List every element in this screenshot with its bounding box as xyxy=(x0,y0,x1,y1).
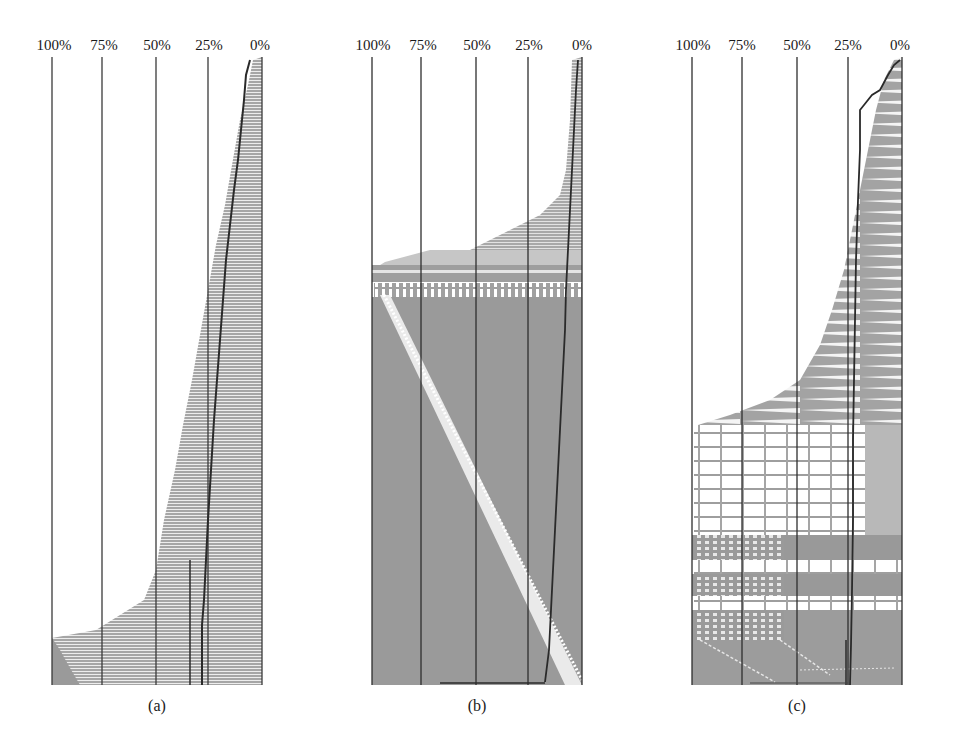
caption-c: (c) xyxy=(788,697,806,715)
envelope-area xyxy=(52,57,262,685)
caption-b: (b) xyxy=(468,697,487,715)
panel-b: 100% 75% 50% 25% 0% xyxy=(360,0,620,754)
plot-a xyxy=(40,0,300,754)
panel-c: 100% 75% 50% 25% 0% xyxy=(680,0,940,754)
plot-b xyxy=(360,0,620,754)
panel-a: 100% 75% 50% 25% 0% (a) xyxy=(40,0,300,754)
caption-a: (a) xyxy=(148,697,166,715)
plot-c xyxy=(680,0,940,754)
envelope-area xyxy=(698,57,902,425)
